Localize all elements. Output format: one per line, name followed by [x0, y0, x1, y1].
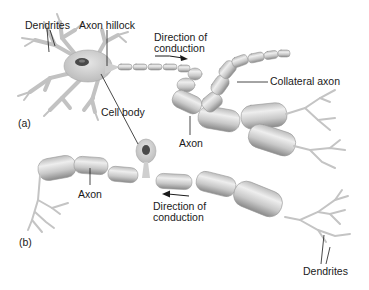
label-direction-b-line2: conduction	[153, 212, 204, 224]
neuron-diagram: Dendrites Axon hillock Direction of cond…	[0, 0, 369, 290]
label-dendrites-a: Dendrites	[25, 20, 70, 31]
label-axon-b: Axon	[78, 189, 102, 200]
label-collateral-axon: Collateral axon	[270, 76, 340, 87]
nucleus-b	[142, 145, 150, 155]
label-panel-b: (b)	[19, 237, 32, 248]
label-axon-hillock: Axon hillock	[79, 20, 135, 31]
cell-body-a	[64, 50, 112, 82]
label-cell-body: Cell body	[101, 107, 145, 118]
label-axon-a: Axon	[179, 138, 203, 149]
label-dendrites-b: Dendrites	[303, 266, 348, 277]
label-direction-a-line2: conduction	[154, 43, 205, 55]
panel-b-neuron	[28, 139, 350, 242]
label-panel-a: (a)	[18, 118, 31, 129]
